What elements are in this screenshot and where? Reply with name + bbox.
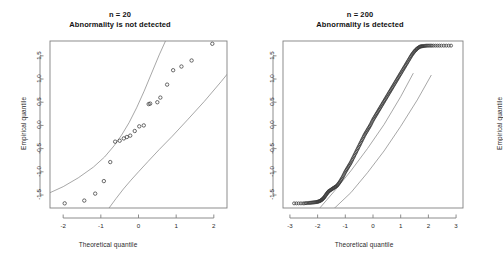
confidence-band-lower: [108, 74, 227, 209]
y-tick-label: 1.0: [268, 72, 275, 86]
panel-left-xaxis-title: Theoretical quantile: [0, 241, 228, 248]
y-tick-label: -1.0: [268, 164, 275, 178]
y-tick-label: -1.5: [35, 188, 42, 202]
x-tick-label: 1: [174, 222, 177, 229]
y-tick-label: -1.5: [268, 188, 275, 202]
panel-right-plot-area: [240, 0, 480, 256]
data-point: [129, 134, 132, 137]
x-tick-label: -1: [98, 222, 104, 229]
y-tick-label: -0.5: [268, 141, 275, 155]
data-point: [138, 125, 141, 128]
panel-right-yaxis-title: Empirical quantile: [496, 97, 503, 150]
confidence-band-lower: [334, 75, 431, 209]
y-tick-label: 0.5: [35, 95, 42, 109]
y-tick-label: 0.5: [268, 95, 275, 109]
y-tick-label: 1.5: [35, 48, 42, 62]
x-tick-label: 2: [427, 222, 430, 229]
x-tick-label: 1: [399, 222, 402, 229]
x-tick-label: -2: [315, 222, 321, 229]
data-point: [102, 179, 105, 182]
panel-left-yaxis-title: Empirical quantile: [20, 97, 27, 150]
data-point: [159, 96, 162, 99]
data-point: [180, 65, 183, 68]
data-point: [93, 192, 96, 195]
data-point: [142, 124, 145, 127]
data-point: [109, 160, 112, 163]
data-point: [63, 202, 66, 205]
data-point: [171, 69, 174, 72]
data-point: [118, 139, 121, 142]
data-point: [190, 59, 193, 62]
y-tick-label: 0.0: [268, 118, 275, 132]
data-point: [211, 42, 214, 45]
x-tick-label: -2: [60, 222, 66, 229]
x-tick-label: 0: [137, 222, 140, 229]
y-tick-label: 1.0: [35, 72, 42, 86]
y-tick-label: -1.0: [35, 164, 42, 178]
panel-right-n200: n = 200 Abnormality is detected Theoreti…: [240, 0, 480, 256]
data-point: [83, 199, 86, 202]
data-point: [133, 129, 136, 132]
x-tick-label: 3: [454, 222, 457, 229]
data-point: [125, 135, 128, 138]
x-tick-label: -3: [287, 222, 293, 229]
y-tick-label: -0.5: [35, 141, 42, 155]
panel-right-xaxis-title: Theoretical quantile: [244, 241, 484, 248]
data-point: [113, 140, 116, 143]
y-tick-label: 1.5: [268, 48, 275, 62]
confidence-band-upper: [50, 38, 167, 192]
x-tick-label: 2: [212, 222, 215, 229]
x-tick-label: -1: [343, 222, 349, 229]
data-point: [165, 83, 168, 86]
panel-left-n20: n = 20 Abnormality is not detected Theor…: [0, 0, 240, 256]
data-point: [156, 101, 159, 104]
x-tick-label: 0: [371, 222, 374, 229]
y-tick-label: 0.0: [35, 118, 42, 132]
